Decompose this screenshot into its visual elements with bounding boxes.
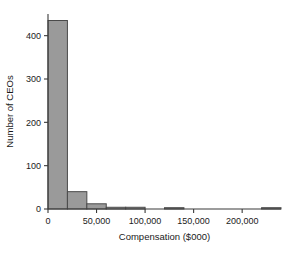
x-tick-label: 100,000 [129,216,162,226]
x-axis-ticks: 050,000100,000150,000200,000 [45,209,258,226]
histogram-bar [87,204,106,209]
y-tick-label: 100 [26,161,41,171]
bars-group [48,21,281,210]
histogram-bar [67,192,86,209]
x-tick-label: 50,000 [83,216,111,226]
histogram-chart: 050,000100,000150,000200,000 01002003004… [0,0,285,271]
axes-group [48,14,281,209]
x-axis-title: Compensation ($000) [119,231,210,242]
x-tick-label: 0 [45,216,50,226]
histogram-bar [48,21,67,210]
x-tick-label: 150,000 [177,216,210,226]
y-tick-label: 0 [36,204,41,214]
chart-canvas: 050,000100,000150,000200,000 01002003004… [0,0,285,271]
y-axis-title: Number of CEOs [4,75,15,148]
x-tick-label: 200,000 [226,216,259,226]
y-tick-label: 300 [26,74,41,84]
y-tick-label: 200 [26,118,41,128]
y-tick-label: 400 [26,31,41,41]
y-axis-ticks: 0100200300400 [26,31,48,214]
